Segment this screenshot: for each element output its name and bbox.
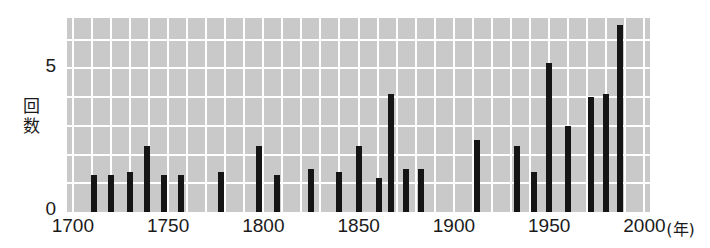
- y-tick-label-0: 0: [10, 198, 56, 220]
- bar: [336, 172, 342, 212]
- bar: [108, 175, 114, 212]
- y-axis-title-char-2: 数: [18, 116, 44, 136]
- bar: [531, 172, 537, 212]
- y-axis-title-char-1: 回: [18, 96, 44, 116]
- bar: [178, 175, 184, 212]
- bar: [127, 172, 133, 212]
- x-axis-unit-label: (年): [666, 216, 694, 240]
- bar: [565, 126, 571, 212]
- bar: [144, 146, 150, 212]
- vertical-gridline: [624, 18, 626, 212]
- bar: [161, 175, 167, 212]
- bar: [603, 94, 609, 212]
- bar: [403, 169, 409, 212]
- x-tick-label: 1850: [338, 215, 380, 237]
- bar: [91, 175, 97, 212]
- bar: [388, 94, 394, 212]
- bar: [218, 172, 224, 212]
- y-axis-title: 回 数: [18, 96, 44, 136]
- eruption-frequency-bar-chart: 回 数 5 0 1700175018001850190019502000 (年): [0, 0, 710, 248]
- vertical-gridline: [167, 18, 169, 212]
- vertical-gridline: [281, 18, 283, 212]
- bar: [474, 140, 480, 212]
- vertical-gridline: [396, 18, 398, 212]
- vertical-gridline: [186, 18, 188, 212]
- vertical-gridline: [510, 18, 512, 212]
- vertical-gridline: [643, 18, 645, 212]
- bar: [617, 25, 623, 212]
- x-tick-label: 2000: [623, 215, 665, 237]
- bar: [274, 175, 280, 212]
- vertical-gridline: [205, 18, 207, 212]
- vertical-gridline: [453, 18, 455, 212]
- x-tick-label: 1950: [528, 215, 570, 237]
- bar: [588, 97, 594, 212]
- x-tick-label: 1750: [147, 215, 189, 237]
- x-tick-label: 1900: [433, 215, 475, 237]
- bar: [546, 63, 552, 212]
- bar: [308, 169, 314, 212]
- bar: [256, 146, 262, 212]
- x-tick-label: 1700: [52, 215, 94, 237]
- vertical-gridline: [224, 18, 226, 212]
- x-tick-label: 1800: [242, 215, 284, 237]
- vertical-gridline: [415, 18, 417, 212]
- bar: [418, 169, 424, 212]
- plot-area: [67, 18, 650, 212]
- y-tick-label-5: 5: [10, 55, 56, 77]
- bar: [376, 178, 382, 212]
- vertical-gridline: [319, 18, 321, 212]
- bar: [356, 146, 362, 212]
- vertical-gridline: [262, 18, 264, 212]
- vertical-gridline: [243, 18, 245, 212]
- bar: [514, 146, 520, 212]
- vertical-gridline: [491, 18, 493, 212]
- vertical-gridline: [300, 18, 302, 212]
- vertical-gridline: [72, 18, 74, 212]
- vertical-gridline: [434, 18, 436, 212]
